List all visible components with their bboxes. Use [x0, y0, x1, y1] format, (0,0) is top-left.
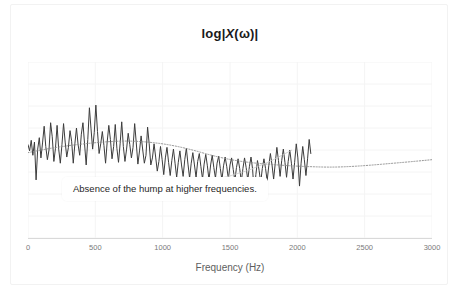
x-tick-500: 500 [89, 243, 102, 252]
title-prefix: log| [202, 26, 226, 41]
title-suffix: (ω)| [234, 26, 258, 41]
x-axis-line [28, 238, 432, 239]
chart-title: log|X(ω)| [0, 26, 460, 41]
x-tick-0: 0 [26, 243, 30, 252]
x-tick-1000: 1000 [154, 243, 171, 252]
x-tick-2000: 2000 [289, 243, 306, 252]
chart-figure: log|X(ω)| 050010001500200025003000 Frequ… [0, 0, 460, 301]
series-lines [28, 62, 432, 238]
plot-area [28, 62, 432, 238]
x-tick-2500: 2500 [356, 243, 373, 252]
x-tick-3000: 3000 [424, 243, 441, 252]
annotation-absence-of-hump: Absence of the hump at higher frequencie… [62, 177, 268, 201]
x-tick-1500: 1500 [222, 243, 239, 252]
x-axis-label: Frequency (Hz) [0, 262, 460, 273]
